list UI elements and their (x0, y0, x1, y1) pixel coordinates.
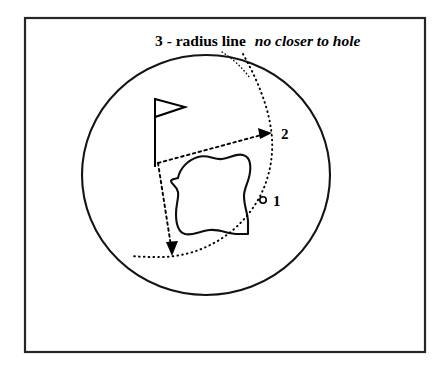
marker-2-label: 2 (281, 126, 289, 142)
marker-1-label: 1 (273, 193, 281, 209)
marker-1-ball-icon (260, 197, 266, 203)
diagram-root: 3 - radius line no closer to hole 1 2 (0, 0, 445, 371)
caption-emphasis: no closer to hole (255, 32, 361, 49)
caption-line: 3 - radius line no closer to hole (155, 32, 360, 49)
golf-relief-diagram-canvas: 3 - radius line no closer to hole 1 2 (0, 0, 445, 371)
caption-prefix: 3 - radius line (155, 32, 246, 49)
